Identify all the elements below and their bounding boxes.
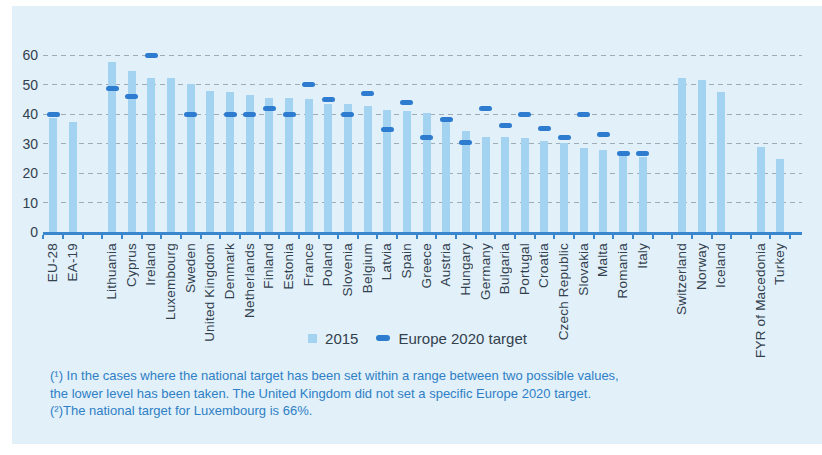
target-dash-austria <box>440 117 453 122</box>
bar-turkey <box>776 159 784 232</box>
x-axis-tick <box>160 235 162 239</box>
x-axis-tick <box>750 235 752 239</box>
legend-target-swatch <box>376 335 390 341</box>
target-dash-portugal <box>518 112 531 117</box>
x-axis-tick <box>612 235 614 239</box>
x-axis-tick <box>180 235 182 239</box>
x-axis-tick <box>42 235 44 239</box>
bar-czech-republic <box>560 143 568 232</box>
footnote-line-2: the lower level has been taken. The Unit… <box>50 385 790 403</box>
target-dash-slovenia <box>341 112 354 117</box>
x-label-turkey: Turkey <box>772 243 788 285</box>
x-axis-tick <box>730 235 732 239</box>
x-label-hungary: Hungary <box>458 243 474 295</box>
x-axis-tick <box>455 235 457 239</box>
x-axis-tick <box>278 235 280 239</box>
y-tick-label-60: 60 <box>12 46 38 64</box>
x-label-iceland: Iceland <box>713 243 729 288</box>
x-axis-tick <box>101 235 103 239</box>
x-axis-tick <box>62 235 64 239</box>
x-label-latvia: Latvia <box>379 243 395 280</box>
x-axis-tick <box>298 235 300 239</box>
legend-2015-swatch <box>308 334 317 343</box>
target-dash-spain <box>400 100 413 105</box>
x-axis-tick <box>416 235 418 239</box>
bar-finland <box>265 98 273 232</box>
x-axis-tick <box>435 235 437 239</box>
x-axis-tick <box>337 235 339 239</box>
x-label-poland: Poland <box>320 243 336 286</box>
chart-legend: 2015 Europe 2020 target <box>43 328 802 348</box>
bar-switzerland <box>678 78 686 232</box>
target-dash-slovakia <box>577 112 590 117</box>
x-axis-tick <box>573 235 575 239</box>
x-label-slovenia: Slovenia <box>340 243 356 296</box>
x-axis-tick <box>553 235 555 239</box>
bar-germany <box>482 137 490 232</box>
bar-croatia <box>540 141 548 232</box>
bar-slovakia <box>580 148 588 232</box>
x-label-lithuania: Lithuania <box>104 243 120 300</box>
x-axis-tick <box>494 235 496 239</box>
target-dash-ireland <box>145 53 158 58</box>
x-axis-tick <box>141 235 143 239</box>
x-label-ea-19: EA-19 <box>65 243 81 282</box>
target-dash-poland <box>322 97 335 102</box>
x-label-eu-28: EU-28 <box>45 243 61 282</box>
legend-target-label: Europe 2020 target <box>398 330 526 347</box>
y-tick-label-20: 20 <box>12 164 38 182</box>
bar-ea-19 <box>69 122 77 232</box>
x-axis-tick <box>593 235 595 239</box>
x-axis-tick <box>711 235 713 239</box>
target-dash-greece <box>420 135 433 140</box>
bar-bulgaria <box>501 137 509 232</box>
x-label-slovakia: Slovakia <box>576 243 592 296</box>
x-label-portugal: Portugal <box>517 243 533 295</box>
x-axis-tick <box>259 235 261 239</box>
x-label-ireland: Ireland <box>143 243 159 286</box>
x-label-denmark: Denmark <box>222 243 238 299</box>
x-axis-tick <box>652 235 654 239</box>
x-label-croatia: Croatia <box>536 243 552 288</box>
x-axis-tick <box>200 235 202 239</box>
bar-fyr-of-macedonia <box>757 147 765 232</box>
bar-norway <box>698 80 706 232</box>
x-axis-tick <box>475 235 477 239</box>
x-label-estonia: Estonia <box>281 243 297 289</box>
x-label-netherlands: Netherlands <box>242 243 258 318</box>
x-axis-tick <box>357 235 359 239</box>
bar-hungary <box>462 131 470 232</box>
x-label-germany: Germany <box>478 243 494 300</box>
x-label-switzerland: Switzerland <box>674 243 690 315</box>
x-axis-tick <box>789 235 791 239</box>
x-label-sweden: Sweden <box>183 243 199 293</box>
bar-poland <box>324 104 332 232</box>
x-axis-line <box>43 232 802 235</box>
x-axis-tick <box>691 235 693 239</box>
bar-portugal <box>521 138 529 232</box>
target-dash-czech-republic <box>558 135 571 140</box>
bar-iceland <box>717 92 725 232</box>
x-label-greece: Greece <box>419 243 435 288</box>
x-axis-tick <box>632 235 634 239</box>
x-axis-tick <box>514 235 516 239</box>
x-label-austria: Austria <box>438 243 454 286</box>
bar-belgium <box>364 106 372 232</box>
x-axis-tick <box>534 235 536 239</box>
x-label-luxembourg: Luxembourg <box>163 243 179 320</box>
x-label-finland: Finland <box>261 243 277 289</box>
target-dash-estonia <box>283 112 296 117</box>
bar-malta <box>599 150 607 232</box>
x-label-italy: Italy <box>635 243 651 269</box>
target-dash-eu-28 <box>47 112 60 117</box>
bar-italy <box>639 157 647 232</box>
target-dash-sweden <box>184 112 197 117</box>
x-label-romania: Romania <box>615 243 631 298</box>
x-label-spain: Spain <box>399 243 415 279</box>
x-label-czech-republic: Czech Republic <box>556 243 572 340</box>
x-axis-tick <box>82 235 84 239</box>
x-label-norway: Norway <box>694 243 710 290</box>
bar-greece <box>423 113 431 232</box>
bar-spain <box>403 111 411 232</box>
x-label-bulgaria: Bulgaria <box>497 243 513 294</box>
